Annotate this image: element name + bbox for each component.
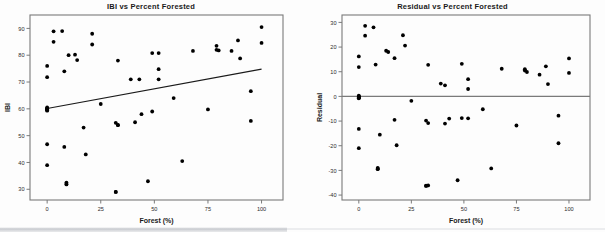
data-point — [357, 55, 361, 59]
data-point — [45, 163, 49, 167]
x-tick-label: 100 — [564, 206, 573, 212]
data-point — [249, 119, 253, 123]
data-point — [378, 133, 382, 137]
data-point — [401, 33, 405, 37]
data-point — [82, 126, 86, 130]
figure-container: IBI vs Percent Forested 0255075100304050… — [0, 0, 605, 232]
x-axis-label-forest: Forest (%) — [139, 217, 173, 225]
data-point — [150, 51, 154, 55]
y-tick-label: 10 — [330, 69, 336, 75]
data-point — [146, 179, 150, 183]
y-tick-label: -10 — [328, 118, 336, 124]
y-tick-label: 30 — [330, 20, 336, 26]
data-point — [137, 77, 141, 81]
y-tick-label: 90 — [18, 26, 24, 32]
data-point — [456, 178, 460, 182]
y-tick-label: -30 — [328, 168, 336, 174]
data-point — [238, 57, 242, 61]
y-tick-label: -40 — [328, 192, 336, 198]
data-point — [403, 44, 407, 48]
data-point — [60, 29, 64, 33]
data-point — [172, 96, 176, 100]
data-point — [447, 117, 451, 121]
data-point — [73, 53, 77, 57]
data-point — [466, 87, 470, 91]
data-point — [260, 25, 264, 29]
data-point — [500, 67, 504, 71]
data-point — [99, 102, 103, 106]
data-point — [466, 116, 470, 120]
data-point — [357, 65, 361, 69]
data-point — [140, 112, 144, 116]
data-point — [409, 99, 413, 103]
data-point — [217, 48, 221, 52]
y-tick-label: 30 — [18, 186, 24, 192]
data-point — [395, 143, 399, 147]
data-point — [45, 64, 49, 68]
data-point — [157, 67, 161, 71]
data-point — [393, 56, 397, 60]
data-point — [157, 51, 161, 55]
data-point — [62, 69, 66, 73]
data-point — [386, 50, 390, 54]
data-point — [557, 141, 561, 145]
data-point — [489, 167, 493, 171]
x-tick-label: 50 — [151, 206, 157, 212]
data-point — [393, 118, 397, 122]
regression-trendline — [47, 69, 261, 108]
data-point — [557, 114, 561, 118]
data-point — [215, 44, 219, 48]
data-point — [67, 53, 71, 57]
data-point — [426, 63, 430, 67]
data-point — [45, 109, 49, 113]
data-point — [45, 75, 49, 79]
data-point — [481, 107, 485, 111]
data-point — [372, 25, 376, 29]
y-tick-label: 70 — [18, 79, 24, 85]
data-point — [191, 49, 195, 53]
data-point — [426, 184, 430, 188]
x-axis-label-forest: Forest (%) — [449, 217, 483, 225]
data-point — [363, 24, 367, 28]
data-point — [460, 62, 464, 66]
data-point — [515, 124, 519, 128]
data-point — [544, 64, 548, 68]
data-point — [443, 122, 447, 126]
data-point — [90, 43, 94, 47]
data-point — [133, 120, 137, 124]
data-point — [180, 159, 184, 163]
data-point — [116, 59, 120, 63]
y-axis-label-ibi: IBI — [4, 103, 11, 112]
scatter-plot-ibi: 025507510030405060708090Forest (%)IBI — [0, 0, 302, 232]
y-tick-label: 40 — [18, 160, 24, 166]
data-point — [75, 58, 79, 62]
chart-panel-ibi: IBI vs Percent Forested 0255075100304050… — [0, 0, 302, 232]
y-tick-label: -20 — [328, 143, 336, 149]
data-point — [466, 77, 470, 81]
data-point — [376, 167, 380, 171]
chart-panel-residual: Residual vs Percent Forested 0255075100-… — [300, 0, 605, 232]
x-tick-label: 25 — [408, 206, 414, 212]
data-point — [116, 123, 120, 127]
data-point — [260, 41, 264, 45]
data-point — [443, 83, 447, 87]
data-point — [150, 110, 154, 114]
data-point — [363, 34, 367, 38]
data-point — [90, 32, 94, 36]
data-point — [249, 89, 253, 93]
data-point — [157, 77, 161, 81]
data-point — [357, 146, 361, 150]
data-point — [230, 49, 234, 53]
data-point — [567, 71, 571, 75]
x-tick-label: 25 — [98, 206, 104, 212]
data-point — [439, 82, 443, 86]
data-point — [84, 153, 88, 157]
data-point — [62, 145, 66, 149]
data-point — [357, 96, 361, 100]
data-point — [426, 121, 430, 125]
y-axis-label-residual: Residual — [316, 93, 323, 122]
plot-frame — [342, 15, 590, 200]
data-point — [546, 82, 550, 86]
data-point — [129, 77, 133, 81]
y-tick-label: 60 — [18, 106, 24, 112]
